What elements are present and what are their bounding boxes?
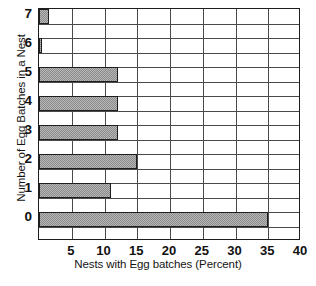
bar-category-7 bbox=[39, 9, 49, 24]
y-tick-5: 5 bbox=[12, 64, 32, 79]
gridline-vertical-20 bbox=[170, 9, 171, 239]
gridline-horizontal-2 bbox=[39, 38, 299, 39]
bar-category-4 bbox=[39, 96, 118, 111]
gridline-vertical-15 bbox=[137, 9, 138, 239]
bar-category-5 bbox=[39, 67, 118, 82]
bar-category-0 bbox=[39, 212, 268, 227]
y-tick-1: 1 bbox=[12, 180, 32, 195]
gridline-vertical-5 bbox=[72, 9, 73, 239]
y-tick-4: 4 bbox=[12, 93, 32, 108]
x-tick-25: 25 bbox=[187, 243, 217, 258]
bar-category-6 bbox=[39, 38, 42, 53]
gridline-horizontal-7 bbox=[39, 111, 299, 112]
gridline-vertical-35 bbox=[268, 9, 269, 239]
gridline-horizontal-15 bbox=[39, 227, 299, 228]
gridline-horizontal-13 bbox=[39, 198, 299, 199]
gridline-horizontal-11 bbox=[39, 169, 299, 170]
y-tick-6: 6 bbox=[12, 35, 32, 50]
bar-category-2 bbox=[39, 154, 137, 169]
gridline-horizontal-9 bbox=[39, 140, 299, 141]
x-tick-35: 35 bbox=[252, 243, 282, 258]
y-tick-0: 0 bbox=[12, 209, 32, 224]
plot-area bbox=[38, 8, 300, 240]
gridline-vertical-25 bbox=[203, 9, 204, 239]
x-axis-title: Nests with Egg batches (Percent) bbox=[0, 258, 316, 270]
gridline-horizontal-5 bbox=[39, 82, 299, 83]
x-tick-20: 20 bbox=[154, 243, 184, 258]
x-tick-5: 5 bbox=[56, 243, 86, 258]
bar-category-1 bbox=[39, 183, 111, 198]
y-tick-7: 7 bbox=[12, 6, 32, 21]
x-tick-15: 15 bbox=[121, 243, 151, 258]
y-tick-2: 2 bbox=[12, 151, 32, 166]
bar-chart: Number of Egg Batches in a Nest bbox=[0, 0, 316, 286]
y-tick-3: 3 bbox=[12, 122, 32, 137]
gridline-vertical-30 bbox=[236, 9, 237, 239]
gridline-horizontal-1 bbox=[39, 24, 299, 25]
gridline-horizontal-3 bbox=[39, 53, 299, 54]
x-tick-30: 30 bbox=[220, 243, 250, 258]
bar-category-3 bbox=[39, 125, 118, 140]
gridline-vertical-10 bbox=[105, 9, 106, 239]
x-tick-10: 10 bbox=[89, 243, 119, 258]
x-tick-40: 40 bbox=[285, 243, 315, 258]
